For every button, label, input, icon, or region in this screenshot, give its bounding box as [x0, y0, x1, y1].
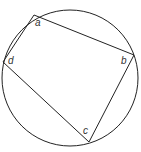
- cyclic-quadrilateral-diagram: a b c d: [0, 0, 141, 152]
- quadrilateral-abcd: [3, 15, 134, 142]
- vertex-label-c: c: [83, 125, 88, 136]
- vertex-label-d: d: [8, 55, 14, 66]
- vertex-label-b: b: [121, 55, 127, 66]
- vertex-label-a: a: [35, 17, 41, 28]
- circumcircle: [2, 10, 138, 146]
